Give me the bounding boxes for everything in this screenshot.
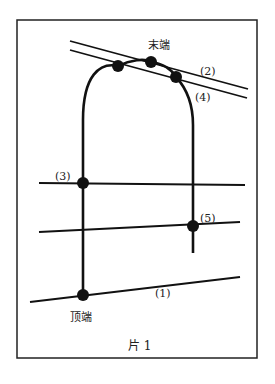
dot-top-right — [170, 71, 182, 83]
dot-5 — [187, 220, 199, 232]
line-4 — [70, 50, 247, 98]
line-1 — [30, 277, 240, 302]
line-3 — [39, 183, 245, 185]
dot-top-left — [112, 60, 124, 72]
label-line-4: (4) — [195, 91, 211, 104]
label-top-end: 末端 — [148, 38, 170, 52]
figure-frame — [17, 20, 257, 358]
arch-path — [83, 60, 193, 296]
diagram-canvas: 末端 (2) (4) (3) (5) (1) 顶端 片 1 — [0, 0, 275, 384]
figure-caption: 片 1 — [128, 339, 151, 353]
dot-1 — [77, 289, 89, 301]
label-line-3: (3) — [55, 170, 71, 183]
dot-top-center — [145, 56, 157, 68]
dot-3 — [77, 177, 89, 189]
label-line-5: (5) — [200, 212, 216, 225]
label-line-2: (2) — [200, 65, 216, 78]
label-line-1: (1) — [155, 287, 171, 300]
label-bottom-end: 顶端 — [70, 311, 92, 324]
